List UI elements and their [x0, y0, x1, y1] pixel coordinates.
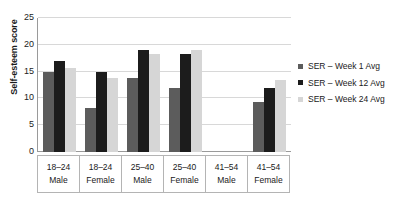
bar: [85, 108, 96, 152]
bar: [169, 88, 180, 152]
bar: [191, 50, 202, 152]
legend-swatch-icon: [298, 97, 303, 102]
legend-item[interactable]: SER – Week 12 Avg: [298, 79, 385, 88]
x-axis-category-age: 18–24: [89, 161, 113, 174]
x-axis-category-age: 25–40: [131, 161, 155, 174]
bar-group: [211, 18, 244, 152]
legend-item-label: SER – Week 12 Avg: [308, 79, 385, 88]
bar: [180, 54, 191, 152]
y-tick-label: 25: [24, 13, 34, 22]
bar: [149, 54, 160, 152]
x-axis-category-sex: Male: [217, 174, 235, 187]
legend-swatch-icon: [298, 64, 303, 69]
bar-group: [43, 18, 76, 152]
bar-group: [253, 18, 286, 152]
y-axis-title: Self-esteem score: [9, 0, 19, 117]
x-axis-category-sex: Male: [49, 174, 67, 187]
bar: [127, 78, 138, 152]
x-axis-category-age: 25–40: [173, 161, 197, 174]
x-axis-category: 25–40Male: [122, 156, 164, 192]
y-tick-label: 5: [29, 120, 34, 129]
x-axis-category-age: 18–24: [47, 161, 71, 174]
bar-group: [85, 18, 118, 152]
bar: [43, 72, 54, 152]
x-axis-category-age: 41–54: [215, 161, 239, 174]
legend-item-label: SER – Week 24 Avg: [308, 95, 385, 104]
bar: [264, 88, 275, 152]
x-axis-category-sex: Female: [170, 174, 198, 187]
bar-chart: Self-esteem score 0510152025 18–24Male18…: [0, 0, 414, 204]
x-axis-category-sex: Female: [254, 174, 282, 187]
x-axis-category: 41–54Male: [206, 156, 248, 192]
x-axis-category: 41–54Female: [248, 156, 290, 192]
bar: [138, 50, 149, 152]
bar: [275, 80, 286, 152]
y-tick-label: 15: [24, 66, 34, 75]
bar: [253, 102, 264, 152]
y-tick-label: 10: [24, 93, 34, 102]
x-axis-category: 18–24Male: [38, 156, 80, 192]
legend-item[interactable]: SER – Week 24 Avg: [298, 95, 385, 104]
plot-area: 0510152025: [37, 18, 290, 152]
x-axis-category-sex: Female: [86, 174, 114, 187]
legend-swatch-icon: [298, 80, 303, 85]
legend-item-label: SER – Week 1 Avg: [308, 62, 380, 71]
x-axis-category: 25–40Female: [164, 156, 206, 192]
y-tick-label: 0: [29, 147, 34, 156]
x-axis-categories: 18–24Male18–24Female25–40Male25–40Female…: [37, 155, 290, 193]
bar: [54, 61, 65, 152]
legend-item[interactable]: SER – Week 1 Avg: [298, 62, 385, 71]
x-axis-category-sex: Male: [133, 174, 151, 187]
bar: [107, 78, 118, 152]
bar-group: [127, 18, 160, 152]
bar-group: [169, 18, 202, 152]
x-axis-category-age: 41–54: [257, 161, 281, 174]
bars-layer: [38, 18, 291, 152]
x-axis-category: 18–24Female: [80, 156, 122, 192]
bar: [65, 68, 76, 152]
chart-legend: SER – Week 1 AvgSER – Week 12 AvgSER – W…: [298, 62, 385, 104]
y-tick-label: 20: [24, 39, 34, 48]
bar: [96, 72, 107, 152]
